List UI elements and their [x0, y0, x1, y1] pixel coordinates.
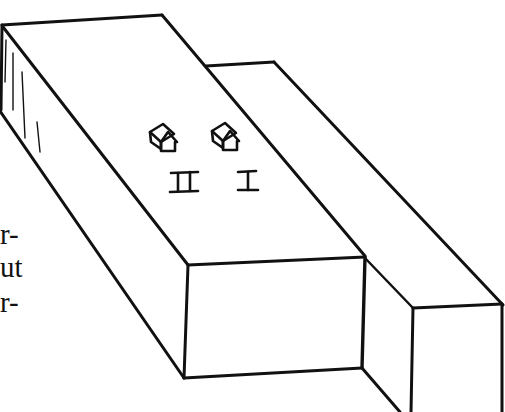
body-text-fragment-1: r-	[0, 220, 19, 249]
body-text-fragment-2: ut	[0, 253, 23, 282]
front-block-bottom-right-edge	[362, 368, 400, 412]
front-block-back-vertical-edge	[1, 25, 2, 110]
back-block-front-left-edge	[411, 308, 413, 412]
figure-canvas	[0, 0, 505, 412]
body-text-fragment-3: r-	[0, 288, 19, 317]
